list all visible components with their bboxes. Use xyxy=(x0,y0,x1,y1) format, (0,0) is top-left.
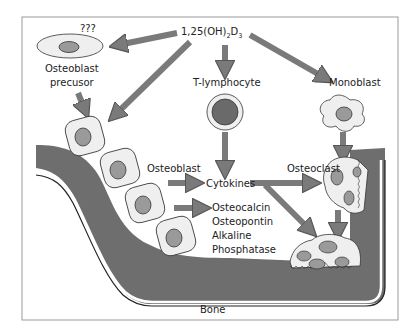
bone-label: Bone xyxy=(200,304,225,315)
product-alkaline: Alkaline xyxy=(212,230,251,241)
product-phosphatase: Phosphatase xyxy=(212,244,276,255)
osteoclast-label: Osteoclast xyxy=(287,163,340,174)
bone-remodeling-diagram: 1,25(OH)2D3 ??? Osteoblast precusor T-ly… xyxy=(0,0,412,336)
product-osteopontin: Osteopontin xyxy=(212,216,273,227)
t-lymphocyte-label: T-lymphocyte xyxy=(192,77,261,88)
monoblast-cell xyxy=(320,95,364,131)
unknown-label: ??? xyxy=(80,23,96,34)
t-lymphocyte-cell xyxy=(207,94,243,130)
osteoblast-precursor-label-1: Osteoblast xyxy=(45,63,99,74)
osteoblast-precursor-label-2: precusor xyxy=(50,77,95,88)
monoblast-label: Monoblast xyxy=(329,77,381,88)
osteoblast-precursor-cell xyxy=(37,34,103,58)
cytokines-label: Cytokines xyxy=(206,178,255,189)
product-osteocalcin: Osteocalcin xyxy=(212,202,270,213)
osteoblast-label: Osteoblast xyxy=(147,163,201,174)
